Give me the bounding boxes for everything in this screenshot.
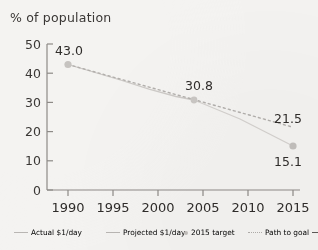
- legend-item-path-to-goal[interactable]: Path to goal: [248, 228, 318, 237]
- x-tick-label-2015: 2015: [276, 200, 309, 215]
- y-tick-label-10: 10: [25, 153, 41, 168]
- x-axis-ticks: [68, 190, 293, 196]
- legend-label-2015-target: 2015 target: [191, 228, 235, 237]
- legend-label-projected: Projected $1/day: [123, 228, 185, 237]
- data-point-marker: [191, 97, 198, 104]
- x-tick-label-2005: 2005: [186, 200, 219, 215]
- legend-item-actual[interactable]: Actual $1/day: [14, 228, 82, 237]
- legend-label-actual: Actual $1/day: [31, 228, 82, 237]
- data-label-15-1: 15.1: [274, 154, 302, 169]
- data-label-43: 43.0: [55, 43, 83, 58]
- legend-item-projected[interactable]: Projected $1/day: [106, 228, 185, 237]
- legend-label-path-to-goal: Path to goal: [265, 228, 309, 237]
- y-tick-label-30: 30: [25, 95, 41, 110]
- chart-figure: % of population 0 10 20 30 40 50: [0, 0, 318, 250]
- data-label-30-8: 30.8: [185, 78, 213, 93]
- y-tick-label-20: 20: [25, 124, 41, 139]
- y-tick-label-0: 0: [33, 183, 41, 198]
- x-tick-label-1990: 1990: [51, 200, 84, 215]
- legend-line-icon: [14, 232, 28, 233]
- data-label-21-5: 21.5: [274, 111, 302, 126]
- data-point-marker: [64, 61, 71, 68]
- legend-dot-icon: [184, 231, 188, 235]
- chart-legend: Actual $1/day Projected $1/day 2015 targ…: [0, 228, 318, 242]
- legend-dotted-icon: [248, 232, 262, 233]
- legend-dash-icon: [312, 232, 318, 233]
- y-axis-ticks: [47, 44, 53, 190]
- data-point-marker: [289, 142, 296, 149]
- x-tick-label-2010: 2010: [231, 200, 264, 215]
- y-tick-label-40: 40: [25, 66, 41, 81]
- legend-item-2015-target[interactable]: 2015 target: [184, 228, 235, 237]
- legend-line-icon: [106, 232, 120, 233]
- x-tick-label-2000: 2000: [141, 200, 174, 215]
- y-tick-label-50: 50: [25, 37, 41, 52]
- x-tick-label-1995: 1995: [96, 200, 129, 215]
- chart-plot-area: 0 10 20 30 40 50 1990 1995 2000 2005 201…: [0, 0, 318, 250]
